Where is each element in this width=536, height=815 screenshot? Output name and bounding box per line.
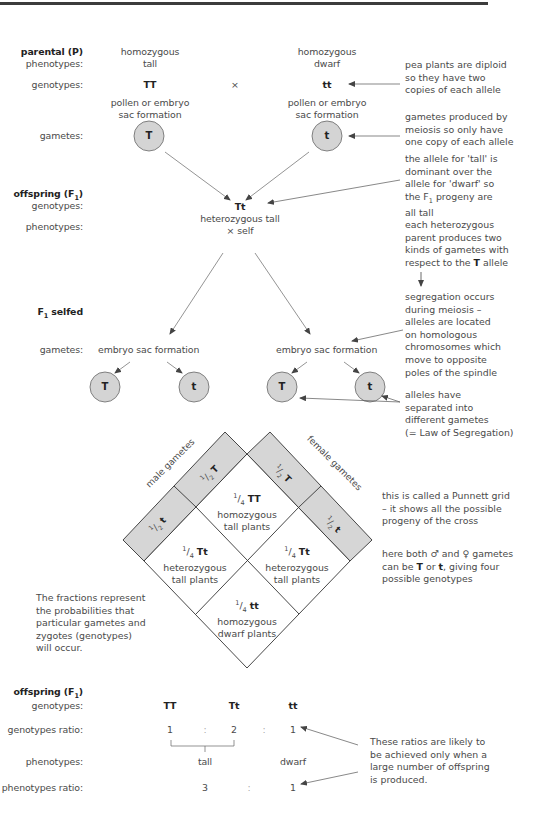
f2-genotypes-label: genotypes: xyxy=(0,700,83,712)
note-two-kinds: each heterozygous parent produces two ki… xyxy=(405,219,509,269)
parental-left-formation: pollen or embryo sac formation xyxy=(100,97,200,121)
note-dominant-line2: dominant over the xyxy=(405,166,498,179)
note-separated: alleles have separated into different ga… xyxy=(405,389,514,439)
punnett-cell-tt: 1/4 tt homozygous dwarf plants xyxy=(202,597,292,641)
note-two-kinds-line3: kinds of gametes with xyxy=(405,244,509,257)
note-separated-line1: alleles have xyxy=(405,389,514,402)
note-separated-line3: different gametes xyxy=(405,414,514,427)
c3-line2: dwarf plants xyxy=(202,628,292,640)
note-dominant-f: the F xyxy=(405,191,429,202)
note-two-kinds-line1: each heterozygous xyxy=(405,219,509,232)
f2-genotype-tt: tt xyxy=(278,700,308,712)
phenotype-ratio-3: 3 xyxy=(195,782,215,794)
note-ratios-line1: These ratios are likely to xyxy=(370,736,490,749)
note-fractions-line1: The fractions represent xyxy=(36,592,146,605)
nbg-rest: , giving four xyxy=(443,561,499,572)
note-punnett-line1: this is called a Punnett grid xyxy=(382,490,510,503)
note-segregation-line1: segregation occurs xyxy=(405,291,501,304)
note-both-gametes-line1: here both ♂ and ♀ gametes xyxy=(382,548,513,561)
note-segregation-line3: alleles are located xyxy=(405,316,501,329)
cross-symbol: × xyxy=(225,79,245,91)
parental-phenotypes-label: phenotypes: xyxy=(0,58,83,70)
f1-heading-text: offspring (F xyxy=(14,188,75,199)
parental-gamete-T: T xyxy=(133,120,165,152)
note-diploid: pea plants are diploid so they have two … xyxy=(405,59,507,97)
parental-left-phenotype-line2: tall xyxy=(110,58,190,70)
note-fractions: The fractions represent the probabilitie… xyxy=(36,592,146,655)
punnett-cell-Tt-left: 1/4 Tt heterozygous tall plants xyxy=(150,543,240,587)
note-both-gametes-line2: can be T or t, giving four xyxy=(382,561,513,574)
f1-right-formation: embryo sac formation xyxy=(276,344,376,356)
note-two-kinds-line2: parent produces two xyxy=(405,232,509,245)
genotype-ratio-1: 1 xyxy=(160,724,180,736)
parental-heading: parental (P) xyxy=(0,46,83,58)
parental-gamete-t: t xyxy=(311,120,343,152)
f1-selfed-heading-end: selfed xyxy=(48,306,83,317)
note-ratios: These ratios are likely to be achieved o… xyxy=(370,736,490,786)
c2-den: 4 xyxy=(292,552,296,560)
c0-den: 4 xyxy=(241,499,245,507)
f1-phenotype: heterozygous tall × self xyxy=(190,213,290,237)
c2-line2: tall plants xyxy=(252,574,342,586)
c1-num: 1 xyxy=(182,545,186,553)
genotype-ratio-2: 2 xyxy=(224,724,244,736)
f1-selfed-gametes-label: gametes: xyxy=(0,344,83,356)
parental-right-phenotype: homozygous dwarf xyxy=(287,46,367,70)
c2-num: 1 xyxy=(284,545,288,553)
parental-genotypes-label: genotypes: xyxy=(0,79,83,91)
cell-TT-head: 1/4 TT xyxy=(202,490,292,509)
note-punnett: this is called a Punnett grid – it shows… xyxy=(382,490,510,528)
note-dominant-line1: the allele for 'tall' is xyxy=(405,153,498,166)
f2-heading-text: offspring (F xyxy=(14,686,75,697)
c3-num: 1 xyxy=(235,599,239,607)
cell-Tt1-head: 1/4 Tt xyxy=(150,543,240,562)
f2-genotype-Tt: Tt xyxy=(219,700,249,712)
f2-phenotype-ratio-label: phenotypes ratio: xyxy=(0,782,83,794)
note-two-kinds-pre: respect to the xyxy=(405,257,474,268)
note-diploid-line2: so they have two xyxy=(405,72,507,85)
f1-phenotype-line2: × self xyxy=(190,225,290,237)
f1-gamete-1: T xyxy=(89,371,121,403)
note-segregation-line6: move to opposite xyxy=(405,354,501,367)
parental-left-genotype: TT xyxy=(130,79,170,91)
left-formation-line1: pollen or embryo xyxy=(100,97,200,109)
note-dominant-rest: progeny are xyxy=(433,191,493,202)
c1-den: 4 xyxy=(190,552,194,560)
note-segregation-line7: poles of the spindle xyxy=(405,367,501,380)
cell-tt-head: 1/4 tt xyxy=(202,597,292,616)
note-fractions-line4: zygotes (genotypes) xyxy=(36,630,146,643)
note-ratios-line2: be achieved only when a xyxy=(370,749,490,762)
f2-heading-end: ) xyxy=(79,686,83,697)
note-ratios-line4: is produced. xyxy=(370,774,490,787)
note-punnett-line2: – it shows all the possible xyxy=(382,503,510,516)
genotype-ratio-sep1: : xyxy=(195,724,215,736)
punnett-cell-Tt-right: 1/4 Tt heterozygous tall plants xyxy=(252,543,342,587)
note-dominant-line5: all tall xyxy=(405,207,498,220)
c0-geno: TT xyxy=(248,493,261,504)
note-segregation-line4: on homologous xyxy=(405,329,501,342)
f1-genotypes-label: genotypes: xyxy=(0,200,83,212)
f1-gamete-3: T xyxy=(266,371,298,403)
note-meiosis-line1: gametes produced by xyxy=(405,111,514,124)
f1-genotype: Tt xyxy=(220,201,260,213)
f1-gamete-2: t xyxy=(178,371,210,403)
note-fractions-line5: will occur. xyxy=(36,642,146,655)
f1-heading-end: ) xyxy=(79,188,83,199)
f1-left-formation: embryo sac formation xyxy=(98,344,198,356)
phenotype-dwarf: dwarf xyxy=(273,756,313,768)
parental-left-phenotype: homozygous tall xyxy=(110,46,190,70)
parental-right-phenotype-line1: homozygous xyxy=(287,46,367,58)
f1-phenotypes-label: phenotypes: xyxy=(0,221,83,233)
note-both-gametes-line3: possible genotypes xyxy=(382,573,513,586)
note-segregation-line5: chromosomes which xyxy=(405,341,501,354)
c2-line1: heterozygous xyxy=(252,562,342,574)
c3-line1: homozygous xyxy=(202,616,292,628)
phenotype-tall: tall xyxy=(185,756,225,768)
cell-Tt2-head: 1/4 Tt xyxy=(252,543,342,562)
phenotype-ratio-sep: : xyxy=(239,782,259,794)
parental-left-phenotype-line1: homozygous xyxy=(110,46,190,58)
note-meiosis-line2: meiosis so only have xyxy=(405,124,514,137)
note-diploid-line3: copies of each allele xyxy=(405,84,507,97)
note-segregation: segregation occurs during meiosis – alle… xyxy=(405,291,501,379)
genotype-ratio-3: 1 xyxy=(283,724,303,736)
